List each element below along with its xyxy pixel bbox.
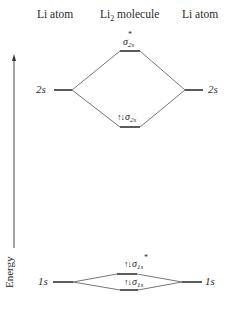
electron-pair-icon: ↑↓ bbox=[117, 112, 124, 122]
mo-diagram-lines bbox=[0, 0, 233, 311]
label-right-1s: 1s bbox=[205, 275, 215, 287]
mo-sub: 1s bbox=[137, 281, 143, 289]
label-sigma1s-star: ↑↓σ1s * bbox=[124, 258, 143, 271]
mo-sub: 2s bbox=[128, 41, 134, 49]
label-right-2s: 2s bbox=[208, 83, 218, 95]
label-sigma2s: ↑↓σ2s bbox=[117, 111, 136, 124]
mo-sub: 1s bbox=[137, 263, 143, 271]
energy-axis-label: Energy bbox=[3, 256, 15, 288]
label-left-2s: 2s bbox=[36, 83, 46, 95]
label-sigma1s: ↑↓σ1s bbox=[124, 276, 143, 289]
label-sigma2s-star: σ2s * bbox=[123, 36, 134, 49]
antibonding-star: * bbox=[128, 30, 132, 39]
electron-pair-icon: ↑↓ bbox=[124, 277, 131, 287]
antibonding-star: * bbox=[144, 253, 148, 262]
mo-sub: 2s bbox=[130, 116, 136, 124]
energy-arrow-icon bbox=[12, 54, 16, 248]
electron-pair-icon: ↑↓ bbox=[124, 259, 131, 269]
label-left-1s: 1s bbox=[38, 275, 48, 287]
